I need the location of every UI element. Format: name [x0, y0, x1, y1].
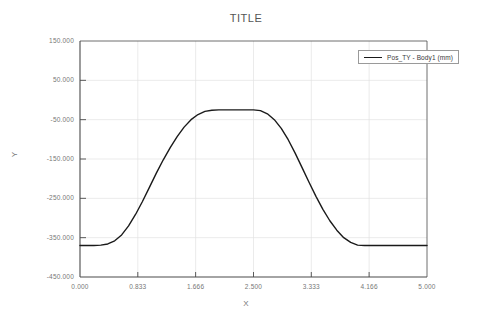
x-tick-label: 5.000 — [405, 283, 449, 290]
x-tick-label: 0.833 — [116, 283, 160, 290]
y-tick-label: -450.000 — [30, 273, 74, 280]
y-tick-label: 50.000 — [30, 76, 74, 83]
x-tick-label: 2.500 — [232, 283, 276, 290]
y-tick-label: -250.000 — [30, 194, 74, 201]
x-tick-label: 1.666 — [174, 283, 218, 290]
y-axis-label: Y — [10, 135, 19, 175]
legend-line-swatch-icon — [364, 57, 382, 58]
legend: Pos_TY - Body1 (mm) — [358, 50, 459, 64]
y-tick-label: -50.000 — [30, 116, 74, 123]
legend-label: Pos_TY - Body1 (mm) — [387, 54, 453, 61]
gridlines — [80, 41, 427, 277]
x-tick-label: 4.166 — [347, 283, 391, 290]
chart-container: TITLE 150.00050.000-50.000-150.000-250.0… — [0, 0, 492, 324]
x-tick-label: 0.000 — [58, 283, 102, 290]
y-tick-label: 150.000 — [30, 37, 74, 44]
y-tick-label: -150.000 — [30, 155, 74, 162]
x-axis-label: X — [0, 299, 492, 308]
y-tick-label: -350.000 — [30, 234, 74, 241]
x-tick-label: 3.333 — [289, 283, 333, 290]
